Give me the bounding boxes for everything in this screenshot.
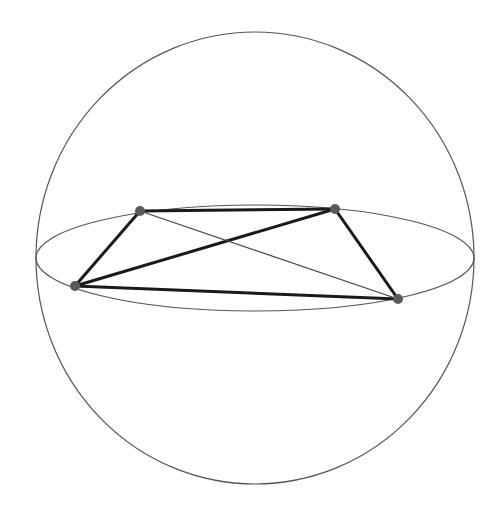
sphere-diagram (0, 0, 500, 513)
sphere-outline (36, 32, 474, 484)
vertex-A (135, 206, 145, 216)
vertex-B (330, 204, 340, 214)
edge-BC (335, 209, 398, 299)
edge-DA (75, 211, 140, 286)
quadrilateral-edges (75, 209, 398, 299)
vertex-C (393, 294, 403, 304)
vertex-D (70, 281, 80, 291)
edge-AB (140, 209, 335, 211)
edge-DB (75, 209, 335, 286)
equator-ellipse (36, 205, 474, 311)
edge-CD (75, 286, 398, 299)
